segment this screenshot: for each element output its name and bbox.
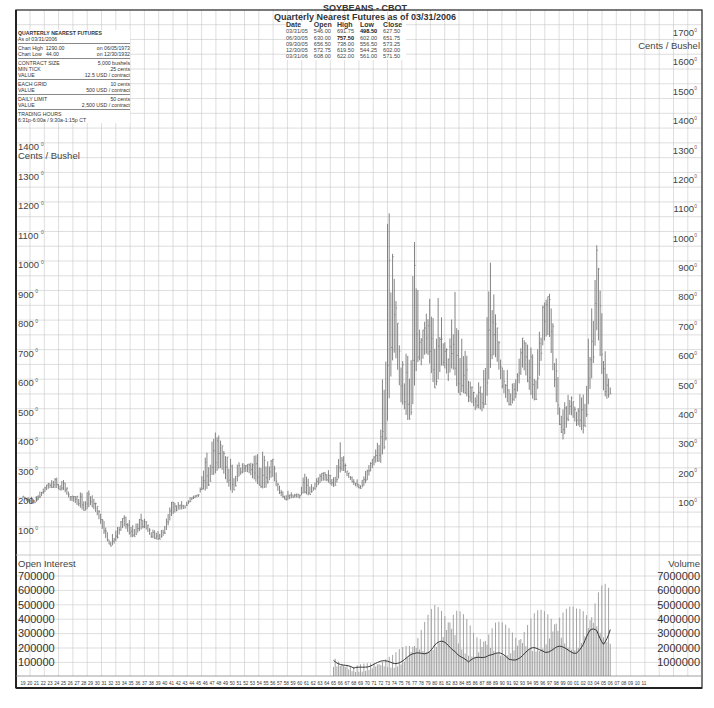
price-bars (23, 213, 611, 546)
svg-text:65: 65 (331, 681, 337, 686)
svg-text:39: 39 (155, 681, 161, 686)
chart: 1400013000120001100010000900080007000600… (0, 0, 714, 708)
svg-text:97: 97 (547, 681, 553, 686)
svg-text:06: 06 (608, 681, 614, 686)
svg-text:6000000: 6000000 (657, 584, 700, 596)
svg-text:0: 0 (694, 320, 697, 326)
svg-text:1400: 1400 (673, 115, 694, 126)
svg-text:600: 600 (18, 377, 34, 388)
svg-text:22: 22 (41, 681, 47, 686)
svg-text:1200: 1200 (18, 200, 39, 211)
svg-text:1300: 1300 (673, 145, 694, 156)
svg-text:47: 47 (209, 681, 215, 686)
svg-text:25: 25 (61, 681, 67, 686)
svg-text:41: 41 (169, 681, 175, 686)
svg-text:90: 90 (500, 681, 506, 686)
volume-label: Volume (668, 558, 700, 569)
svg-text:0: 0 (694, 203, 697, 209)
svg-text:5000000: 5000000 (657, 599, 700, 611)
svg-text:55: 55 (263, 681, 269, 686)
svg-text:0: 0 (694, 262, 697, 268)
daily-limit-row: DAILY LIMIT 50 cents (18, 94, 130, 102)
svg-text:700000: 700000 (18, 570, 55, 582)
chart-low-label: Chart Low (18, 51, 42, 57)
svg-text:37: 37 (142, 681, 148, 686)
svg-text:11: 11 (642, 681, 647, 686)
svg-text:200: 200 (18, 495, 34, 506)
svg-text:76: 76 (405, 681, 411, 686)
svg-text:1200: 1200 (673, 174, 694, 185)
svg-text:300000: 300000 (18, 627, 55, 639)
svg-text:08: 08 (621, 681, 627, 686)
svg-text:86: 86 (473, 681, 479, 686)
svg-text:59: 59 (290, 681, 296, 686)
svg-text:98: 98 (554, 681, 560, 686)
daily-limit-value-label: VALUE (18, 102, 35, 108)
svg-text:71: 71 (371, 681, 377, 686)
svg-text:49: 49 (223, 681, 229, 686)
each-grid-row: EACH GRID 10 cents (18, 79, 130, 87)
svg-text:74: 74 (392, 681, 398, 686)
svg-text:500000: 500000 (18, 599, 55, 611)
svg-text:1100: 1100 (18, 230, 38, 241)
svg-text:20: 20 (27, 681, 33, 686)
svg-text:0: 0 (35, 436, 38, 442)
svg-text:7000000: 7000000 (657, 570, 700, 582)
svg-text:36: 36 (135, 681, 141, 686)
svg-text:0: 0 (35, 525, 38, 531)
svg-text:50: 50 (230, 681, 236, 686)
svg-text:02: 02 (581, 681, 587, 686)
svg-text:1500: 1500 (673, 86, 694, 97)
svg-text:200: 200 (678, 468, 694, 479)
svg-text:85: 85 (466, 681, 472, 686)
svg-text:79: 79 (425, 681, 431, 686)
svg-text:800: 800 (678, 291, 694, 302)
svg-text:30: 30 (95, 681, 101, 686)
svg-text:0: 0 (35, 318, 38, 324)
svg-text:10: 10 (635, 681, 641, 686)
table-cell: 561.00 (360, 53, 383, 59)
trading-hours-value: 6:31p-6:00a / 9:30a-1:15p CT (18, 117, 130, 123)
svg-text:0: 0 (41, 259, 44, 265)
svg-text:0: 0 (41, 229, 44, 235)
svg-text:31: 31 (101, 681, 107, 686)
table-row: 03/31/06608.00622.00561.00571.50 (286, 53, 406, 59)
svg-text:0: 0 (694, 56, 697, 62)
svg-text:100000: 100000 (18, 656, 55, 668)
svg-text:87: 87 (479, 681, 485, 686)
svg-text:21: 21 (34, 681, 40, 686)
trading-hours-label: TRADING HOURS (18, 109, 130, 117)
svg-text:1000000: 1000000 (657, 656, 700, 668)
svg-text:300: 300 (18, 466, 34, 477)
svg-text:35: 35 (128, 681, 134, 686)
svg-text:0: 0 (41, 170, 44, 176)
svg-text:45: 45 (196, 681, 202, 686)
x-axis: 1920212223242526272829303132333435363738… (20, 681, 646, 686)
svg-text:600: 600 (678, 350, 694, 361)
svg-text:05: 05 (601, 681, 607, 686)
svg-text:96: 96 (540, 681, 546, 686)
svg-text:900: 900 (678, 262, 694, 273)
svg-text:52: 52 (243, 681, 249, 686)
svg-text:0: 0 (694, 350, 697, 356)
svg-text:07: 07 (614, 681, 620, 686)
svg-text:32: 32 (108, 681, 114, 686)
svg-text:53: 53 (250, 681, 256, 686)
svg-text:0: 0 (694, 379, 697, 385)
svg-text:0: 0 (694, 144, 697, 150)
svg-text:01: 01 (574, 681, 580, 686)
svg-text:900: 900 (18, 289, 34, 300)
svg-text:0: 0 (694, 497, 697, 503)
contract-info-panel: QUARTERLY NEAREST FUTURES As of 03/31/20… (18, 30, 130, 123)
svg-text:00: 00 (567, 681, 573, 686)
daily-limit-usd: 2,500 USD / contract (82, 102, 130, 108)
chart-title: SOYBEANS - CBOT Quarterly Nearest Future… (240, 4, 490, 22)
svg-text:03: 03 (587, 681, 593, 686)
svg-text:1000: 1000 (673, 233, 694, 244)
svg-text:600000: 600000 (18, 584, 55, 596)
table-cell: 622.00 (337, 53, 360, 59)
svg-text:200000: 200000 (18, 642, 55, 654)
svg-text:72: 72 (378, 681, 384, 686)
open-interest-label: Open Interest (18, 558, 76, 569)
svg-text:400000: 400000 (18, 613, 55, 625)
